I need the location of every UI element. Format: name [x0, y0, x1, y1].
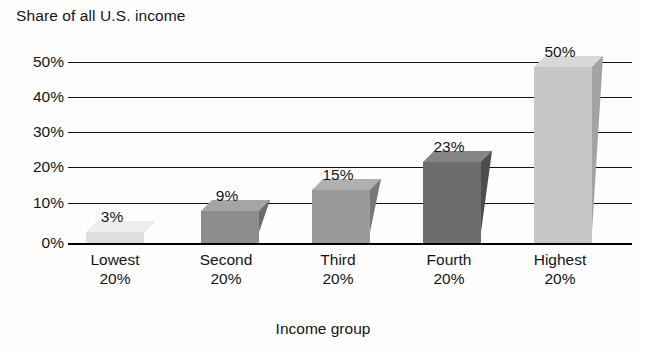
y-tick-label-0: 0% [4, 235, 64, 251]
y-tick-label-10: 10% [4, 195, 64, 211]
bar-front-face [86, 232, 144, 243]
bar-front-face [423, 162, 481, 243]
bar-side-face [481, 151, 492, 232]
x-tick-label-line2: 20% [288, 269, 388, 288]
y-tick-label-50: 50% [4, 54, 64, 70]
bar-third-20 [312, 190, 370, 243]
x-tick-label-lowest-20: Lowest 20% [65, 250, 165, 288]
x-tick-label-line1: Fourth [427, 251, 472, 268]
x-tick-label-line2: 20% [65, 269, 165, 288]
x-tick-label-line1: Second [200, 251, 253, 268]
bar-front-face [201, 211, 259, 243]
x-tick-label-second-20: Second 20% [176, 250, 276, 288]
value-label-fourth-20: 23% [409, 139, 489, 155]
x-axis-title: Income group [0, 320, 646, 338]
bar-side-face [592, 56, 603, 232]
y-tick-label-30: 30% [4, 124, 64, 140]
bar-lowest-20 [86, 232, 144, 243]
x-tick-label-line2: 20% [510, 269, 610, 288]
x-tick-label-line2: 20% [399, 269, 499, 288]
x-axis-line [68, 243, 632, 245]
x-tick-label-line1: Third [320, 251, 355, 268]
value-label-second-20: 9% [187, 188, 267, 204]
bar-front-face [312, 190, 370, 243]
bar-highest-20 [534, 67, 592, 243]
value-label-lowest-20: 3% [72, 209, 152, 225]
x-tick-label-line1: Lowest [90, 251, 139, 268]
plot-area: 50% 40% 30% 20% 10% 0% [0, 0, 646, 356]
bar-front-face [534, 67, 592, 243]
bar-chart: Share of all U.S. income 50% 40% 30% 20%… [0, 0, 646, 356]
x-tick-label-highest-20: Highest 20% [510, 250, 610, 288]
x-tick-label-line2: 20% [176, 269, 276, 288]
y-tick-label-40: 40% [4, 89, 64, 105]
x-tick-label-line1: Highest [534, 251, 587, 268]
bar-second-20 [201, 211, 259, 243]
value-label-third-20: 15% [298, 167, 378, 183]
bar-fourth-20 [423, 162, 481, 243]
value-label-highest-20: 50% [520, 44, 600, 60]
x-tick-label-third-20: Third 20% [288, 250, 388, 288]
x-tick-label-fourth-20: Fourth 20% [399, 250, 499, 288]
y-tick-label-20: 20% [4, 159, 64, 175]
